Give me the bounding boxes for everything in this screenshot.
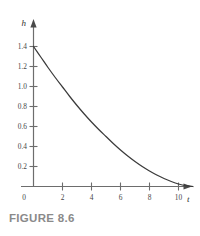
y-axis-variable-label: h: [22, 18, 27, 28]
x-tick-label-2: 2: [61, 193, 65, 202]
y-tick-label-1.2: 1.2: [18, 62, 28, 71]
x-tick-label-8: 8: [148, 193, 152, 202]
figure-caption: FIGURE 8.6: [9, 212, 75, 224]
y-tick-label-1.4: 1.4: [18, 42, 28, 51]
y-tick-label-0.6: 0.6: [18, 122, 28, 131]
exponential-decay-chart: 0.2 0.4 0.6 0.8 1.0 1.2 1.4 2 4 6 8 10 0…: [0, 0, 200, 212]
x-tick-label-4: 4: [90, 193, 94, 202]
y-tick-label-0.8: 0.8: [18, 102, 28, 111]
origin-label: 0: [22, 193, 26, 202]
y-tick-label-0.4: 0.4: [18, 142, 28, 151]
y-tick-label-0.2: 0.2: [18, 162, 28, 171]
x-axis-variable-label: t: [187, 194, 190, 204]
y-axis-arrowhead: [30, 19, 36, 28]
y-tick-label-1.0: 1.0: [18, 82, 28, 91]
decay-curve: [34, 47, 194, 187]
x-tick-label-10: 10: [175, 193, 183, 202]
figure-container: 0.2 0.4 0.6 0.8 1.0 1.2 1.4 2 4 6 8 10 0…: [0, 0, 200, 236]
x-tick-label-6: 6: [119, 193, 123, 202]
